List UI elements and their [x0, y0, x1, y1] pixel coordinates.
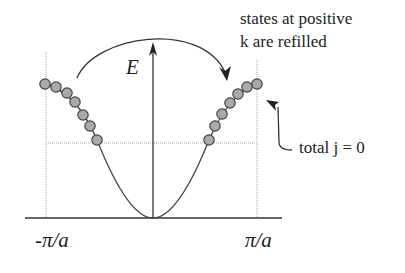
refill-annotation-line2: k are refilled	[240, 32, 327, 52]
k-right-label: π/a	[245, 228, 272, 253]
state-dot	[233, 89, 243, 99]
state-dot	[40, 79, 50, 89]
state-dot	[204, 135, 214, 145]
total-j-annotation: total j = 0	[299, 138, 365, 158]
state-dot	[225, 98, 235, 108]
energy-label: E	[126, 55, 139, 80]
state-dot	[51, 82, 61, 92]
state-dot	[70, 97, 80, 107]
total-j-pointer	[278, 107, 292, 150]
state-dot	[210, 121, 220, 131]
state-dot	[252, 79, 262, 89]
refill-arrowhead	[219, 66, 231, 81]
k-left-label: -π/a	[35, 228, 69, 253]
state-dot	[217, 109, 227, 119]
total-j-arrowhead	[266, 100, 279, 111]
state-dot	[85, 121, 95, 131]
occupied-states	[40, 79, 262, 145]
state-dot	[78, 110, 88, 120]
state-dot	[242, 82, 252, 92]
refill-arc	[77, 39, 225, 78]
refill-annotation-line1: states at positive	[240, 9, 352, 29]
state-dot	[62, 88, 72, 98]
state-dot	[92, 135, 102, 145]
